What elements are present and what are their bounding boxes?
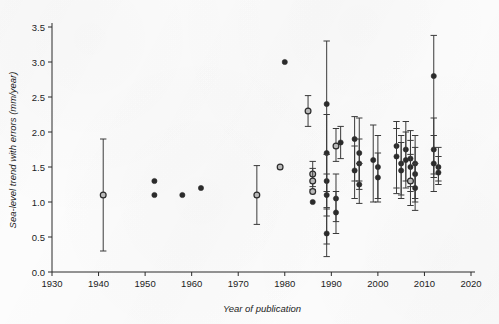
data-point (333, 129, 339, 162)
marker-filled-circle (180, 192, 185, 197)
data-point (152, 192, 157, 197)
x-tick-label: 1950 (135, 278, 156, 289)
marker-filled-circle (324, 101, 329, 106)
data-point (254, 166, 260, 225)
x-tick-label: 2020 (460, 278, 481, 289)
data-point (370, 125, 376, 202)
marker-filled-circle (436, 170, 441, 175)
marker-filled-circle (282, 59, 287, 64)
marker-filled-circle (152, 192, 157, 197)
marker-open-circle (333, 143, 339, 149)
x-axis-title: Year of publication (223, 303, 301, 314)
data-point (305, 96, 311, 127)
marker-open-circle (254, 192, 260, 198)
x-tick-label: 1990 (321, 278, 342, 289)
y-tick-label: 2.0 (32, 127, 45, 138)
marker-filled-circle (431, 161, 436, 166)
data-point (435, 157, 441, 185)
data-point (431, 136, 437, 192)
x-tick-label: 1940 (88, 278, 109, 289)
marker-filled-circle (431, 73, 436, 78)
data-point (412, 164, 418, 211)
x-tick-label: 1970 (228, 278, 249, 289)
data-point (152, 178, 157, 183)
marker-filled-circle (394, 154, 399, 159)
x-tick-label: 1980 (274, 278, 295, 289)
chart-canvas: 0.00.51.01.52.02.53.03.5 193019401950196… (0, 0, 499, 324)
marker-open-circle (310, 178, 316, 184)
marker-open-circle (305, 108, 311, 114)
y-tick-label: 2.5 (32, 92, 45, 103)
x-tick-label: 2010 (414, 278, 435, 289)
marker-filled-circle (413, 185, 418, 190)
y-tick-label: 3.5 (32, 22, 45, 33)
y-axis: 0.00.51.01.52.02.53.03.5 (32, 22, 52, 278)
marker-filled-circle (357, 182, 362, 187)
y-tick-label: 1.5 (32, 162, 45, 173)
marker-filled-circle (198, 185, 203, 190)
data-series (100, 35, 442, 256)
y-tick-label: 1.0 (32, 197, 45, 208)
x-tick-label: 2000 (367, 278, 388, 289)
marker-open-circle (277, 164, 283, 170)
data-point (198, 185, 203, 190)
marker-filled-circle (333, 210, 338, 215)
x-tick-label: 1960 (181, 278, 202, 289)
marker-filled-circle (352, 168, 357, 173)
marker-filled-circle (310, 199, 315, 204)
data-point (393, 129, 399, 194)
marker-filled-circle (338, 140, 343, 145)
x-tick-label: 1930 (41, 278, 62, 289)
marker-filled-circle (371, 157, 376, 162)
marker-open-circle (310, 189, 316, 195)
data-point (277, 164, 283, 170)
y-tick-label: 0.0 (32, 267, 45, 278)
scatter-plot-figure: 0.00.51.01.52.02.53.03.5 193019401950196… (0, 0, 499, 324)
marker-filled-circle (152, 178, 157, 183)
data-point (100, 139, 106, 251)
marker-open-circle (100, 192, 106, 198)
data-point (310, 189, 316, 195)
marker-filled-circle (324, 231, 329, 236)
x-axis: 1930194019501960197019801990200020102020 (41, 272, 481, 289)
y-axis-title: Sea-level trend with errors (mm/year) (7, 72, 18, 229)
data-point (282, 59, 287, 64)
data-point (310, 199, 315, 204)
data-point (180, 192, 185, 197)
marker-filled-circle (375, 175, 380, 180)
marker-filled-circle (399, 168, 404, 173)
data-point (337, 126, 343, 158)
y-tick-label: 0.5 (32, 232, 45, 243)
marker-filled-circle (324, 192, 329, 197)
marker-open-circle (408, 178, 414, 184)
y-tick-label: 3.0 (32, 57, 45, 68)
